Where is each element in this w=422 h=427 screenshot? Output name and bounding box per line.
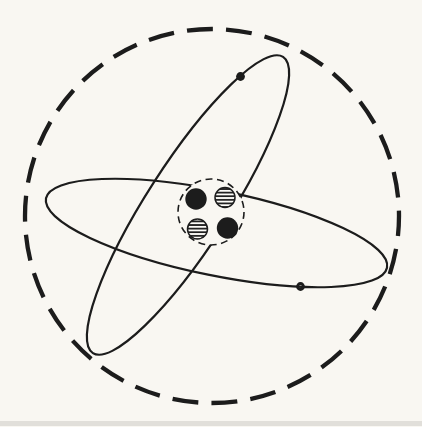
scan-edge-artifact: [0, 421, 422, 426]
electron-on-tilted-orbit: [236, 72, 245, 81]
nucleon-solid-lower-right: [217, 217, 238, 238]
scanned-page: [0, 0, 422, 427]
nucleon-hatched-upper-right: [215, 188, 235, 208]
nucleon-solid-upper-left: [185, 188, 206, 209]
nucleon-hatched-lower-left: [188, 219, 208, 239]
nucleus: [178, 179, 244, 245]
atom-model-diagram: [0, 0, 422, 427]
